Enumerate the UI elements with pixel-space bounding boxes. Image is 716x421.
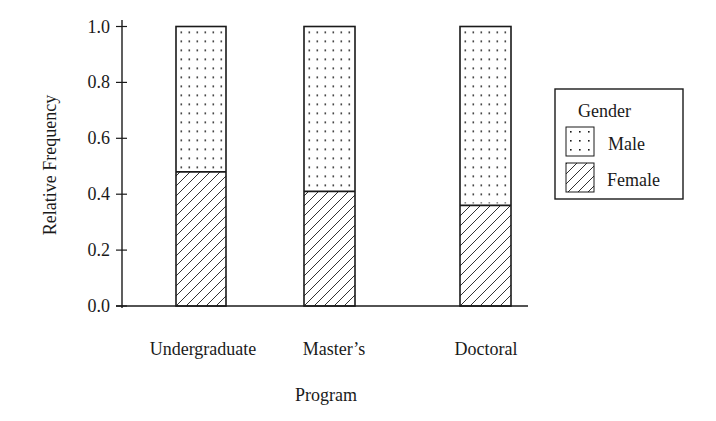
segment-female <box>176 172 226 306</box>
segment-male <box>306 29 353 190</box>
y-tick-label: 1.0 <box>88 17 111 37</box>
y-axis: 0.00.20.40.60.81.0 <box>88 17 128 317</box>
bars <box>176 27 511 307</box>
bar-masters <box>304 27 355 307</box>
bar-doctoral <box>460 27 511 307</box>
x-axis-tick-labels: UndergraduateMaster’sDoctoral <box>150 339 518 359</box>
legend-title: Gender <box>578 101 631 121</box>
y-tick-label: 0.2 <box>88 240 111 260</box>
segment-female <box>304 191 355 306</box>
y-axis-ticks: 0.00.20.40.60.81.0 <box>88 17 128 317</box>
bar-undergraduate <box>176 27 226 307</box>
x-tick-label: Undergraduate <box>150 339 257 359</box>
svg-text:Relative Frequency: Relative Frequency <box>40 95 60 235</box>
x-tick-label: Doctoral <box>455 339 518 359</box>
y-tick-label: 0.0 <box>88 296 111 316</box>
segment-female <box>460 205 511 306</box>
x-tick-label: Master’s <box>303 339 366 359</box>
legend-label-female: Female <box>607 170 660 190</box>
legend: Gender Male Female <box>555 89 683 199</box>
x-axis-label: Program <box>295 385 357 405</box>
stacked-bar-chart: Relative Frequency 0.00.20.40.60.81.0 Un… <box>0 0 716 421</box>
segment-male <box>462 29 509 204</box>
y-tick-label: 0.4 <box>88 184 111 204</box>
y-tick-label: 0.8 <box>88 72 111 92</box>
y-tick-label: 0.6 <box>88 128 111 148</box>
legend-label-male: Male <box>608 134 645 154</box>
segment-male <box>178 29 224 170</box>
y-axis-label: Relative Frequency <box>40 95 60 235</box>
